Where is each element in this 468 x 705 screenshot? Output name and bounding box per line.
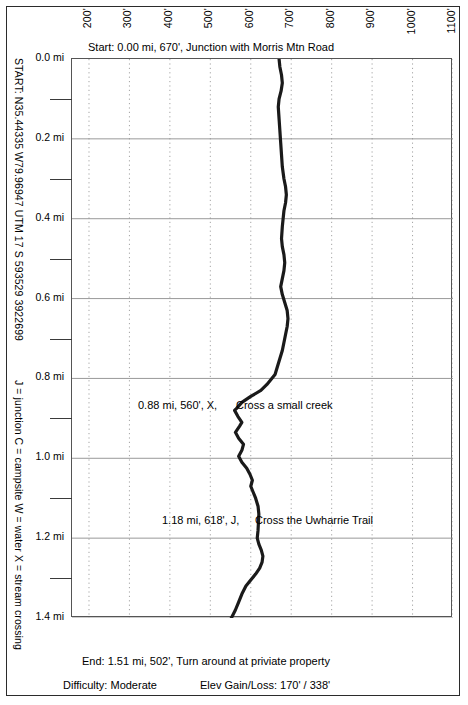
minor-tick (50, 259, 72, 260)
elevation-tick-600: 600' (244, 8, 255, 28)
distance-tick-0-8-mi: 0.8 mi (0, 371, 64, 382)
profile-plot-area (71, 58, 452, 617)
distance-tick-1-4-mi: 1.4 mi (0, 611, 64, 622)
elevation-tick-400: 400' (163, 8, 174, 28)
distance-tick-0-0-mi: 0.0 mi (0, 52, 64, 63)
minor-tick (50, 498, 72, 499)
minor-tick (50, 339, 72, 340)
waypoint-1-label: 0.88 mi, 560', X, (138, 399, 217, 412)
difficulty-label: Difficulty: Moderate (63, 679, 157, 692)
elevation-gain-loss-label: Elev Gain/Loss: 170' / 338' (200, 679, 330, 692)
minor-tick (50, 578, 72, 579)
end-caption: End: 1.51 mi, 502', Turn around at privi… (82, 655, 330, 668)
horizontal-gridlines (72, 139, 453, 618)
elevation-tick-200: 200' (82, 8, 93, 28)
elevation-trace-svg (72, 59, 453, 618)
elevation-tick-1100: 1100' (446, 8, 457, 34)
distance-axis: 0.0 mi0.2 mi0.4 mi0.6 mi0.8 mi1.0 mi1.2 … (0, 0, 68, 705)
elevation-trace-line (211, 59, 288, 618)
vertical-gridlines (89, 59, 453, 618)
distance-tick-0-6-mi: 0.6 mi (0, 292, 64, 303)
elevation-tick-800: 800' (325, 8, 336, 28)
distance-tick-1-0-mi: 1.0 mi (0, 451, 64, 462)
distance-tick-1-2-mi: 1.2 mi (0, 531, 64, 542)
marker-legend: J = junction C = campsite W = water X = … (13, 380, 24, 650)
waypoint-2-description: Cross the Uwharrie Trail (255, 514, 373, 527)
waypoint-1-description: Cross a small creek (236, 399, 333, 412)
minor-tick (50, 418, 72, 419)
waypoint-2-label: 1.18 mi, 618', J, (162, 514, 239, 527)
elevation-profile-page: 200'300'400'500'600'700'800'900'1000'110… (0, 0, 468, 705)
minor-tick (50, 179, 72, 180)
minor-tick (50, 99, 72, 100)
distance-tick-0-4-mi: 0.4 mi (0, 212, 64, 223)
elevation-tick-500: 500' (203, 8, 214, 28)
start-coordinates: START: N35.44335 W79.96947 UTM 17 S 5935… (13, 58, 24, 341)
elevation-tick-900: 900' (365, 8, 376, 28)
elevation-tick-300: 300' (122, 8, 133, 28)
distance-tick-0-2-mi: 0.2 mi (0, 132, 64, 143)
elevation-tick-700: 700' (284, 8, 295, 28)
elevation-tick-1000: 1000' (406, 8, 417, 34)
start-caption: Start: 0.00 mi, 670', Junction with Morr… (88, 41, 334, 54)
